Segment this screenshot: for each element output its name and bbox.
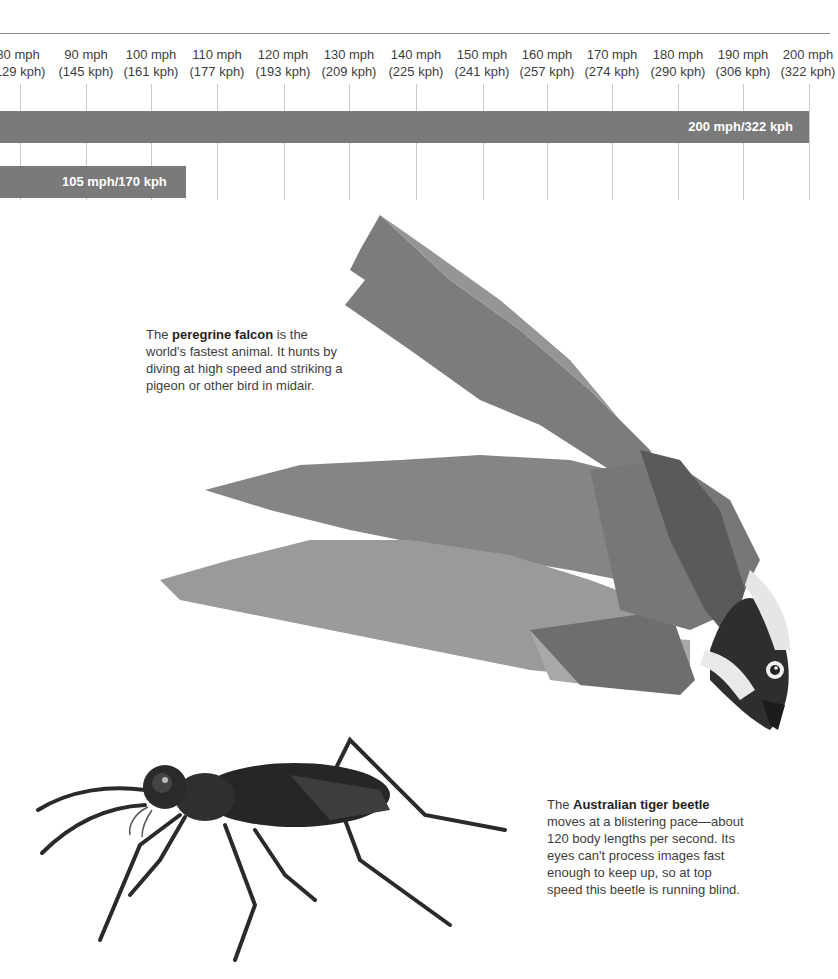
tick-label-110: 110 mph(177 kph) [182, 46, 252, 80]
australian-tiger-beetle-illustration [30, 735, 520, 975]
beetle-name: Australian tiger beetle [573, 797, 710, 812]
tick-label-200: 200 mph(322 kph) [773, 46, 838, 80]
axis-line [0, 33, 830, 34]
bar-value-label: 105 mph/170 kph [62, 166, 167, 198]
beetle-caption: The Australian tiger beetle moves at a b… [547, 796, 747, 898]
tick-label-90: 90 mph(145 kph) [51, 46, 121, 80]
gridline [809, 84, 810, 200]
tick-label-100: 100 mph(161 kph) [116, 46, 186, 80]
tick-label-150: 150 mph(241 kph) [447, 46, 517, 80]
tick-label-130: 130 mph(209 kph) [314, 46, 384, 80]
bar-value-label: 200 mph/322 kph [688, 111, 793, 143]
tick-label-180: 180 mph(290 kph) [643, 46, 713, 80]
peregrine-falcon-illustration [150, 210, 810, 740]
tick-label-140: 140 mph(225 kph) [381, 46, 451, 80]
tick-label-190: 190 mph(306 kph) [708, 46, 778, 80]
bar-peregrine-falcon: 200 mph/322 kph [0, 111, 809, 143]
tick-label-120: 120 mph(193 kph) [248, 46, 318, 80]
tick-label-80: 80 mph(129 kph) [0, 46, 53, 80]
tick-label-170: 170 mph(274 kph) [577, 46, 647, 80]
bar-second-animal: 105 mph/170 kph [0, 166, 186, 198]
tick-label-160: 160 mph(257 kph) [512, 46, 582, 80]
